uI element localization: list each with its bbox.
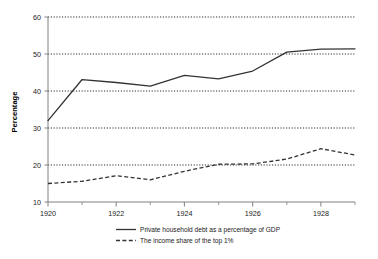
x-tick-label: 1926 bbox=[245, 209, 261, 218]
x-axis-tick-labels: 1920 1922 1924 1926 1928 bbox=[40, 209, 329, 218]
line-chart: 60 50 40 30 20 10 1920 1922 1924 bbox=[0, 0, 378, 259]
y-tick-label: 30 bbox=[33, 124, 41, 133]
plot-background bbox=[48, 17, 355, 202]
x-tick-label: 1928 bbox=[313, 209, 329, 218]
y-tick-label: 60 bbox=[33, 13, 41, 22]
y-tick-label: 10 bbox=[33, 198, 41, 207]
x-tick-label: 1920 bbox=[40, 209, 56, 218]
legend-label-private-household-debt: Private household debt as a percentage o… bbox=[140, 226, 281, 234]
y-tick-label: 50 bbox=[33, 50, 41, 59]
legend-label-top-1-percent-income-share: The income share of the top 1% bbox=[140, 237, 234, 245]
chart-figure: 60 50 40 30 20 10 1920 1922 1924 bbox=[0, 0, 378, 259]
y-axis-title: Percentage bbox=[10, 92, 19, 133]
chart-legend: Private household debt as a percentage o… bbox=[116, 226, 281, 245]
x-axis-major-ticks bbox=[48, 202, 321, 207]
y-tick-label: 20 bbox=[33, 161, 41, 170]
y-axis-tick-labels: 60 50 40 30 20 10 bbox=[33, 13, 41, 207]
x-tick-label: 1922 bbox=[108, 209, 124, 218]
x-tick-label: 1924 bbox=[176, 209, 192, 218]
y-tick-label: 40 bbox=[33, 87, 41, 96]
y-axis-ticks bbox=[45, 17, 49, 202]
